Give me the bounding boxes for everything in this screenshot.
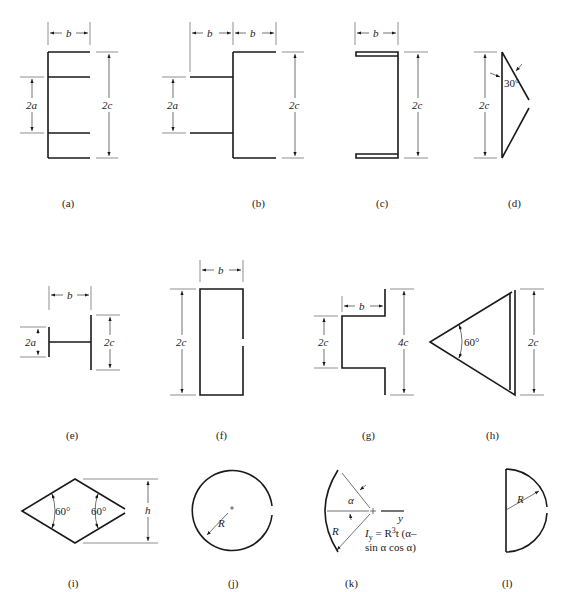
figure-g: b 2c 4c (g) <box>314 289 414 442</box>
caption-i: (i) <box>68 577 79 590</box>
cross-sections-diagram: b 2a 2c (a) b b 2a 2c (b) b 2c (c) <box>0 0 564 592</box>
dim-b: b <box>373 27 379 39</box>
caption-a: (a) <box>62 197 75 210</box>
axis-y: y <box>397 512 403 524</box>
dim-R: R <box>516 493 524 505</box>
svg-text:Iy = R3t (α–: Iy = R3t (α– <box>364 526 417 542</box>
figure-h: 60° 2c (h) <box>430 289 544 442</box>
caption-h: (h) <box>486 429 499 442</box>
caption-e: (e) <box>66 429 79 442</box>
dim-2a: 2a <box>26 99 38 111</box>
dim-b1: b <box>207 27 213 39</box>
figure-b: b b 2a 2c (b) <box>162 22 304 210</box>
angle-60-right: 60° <box>91 505 106 517</box>
dim-2c: 2c <box>176 336 187 348</box>
angle-60-left: 60° <box>55 505 70 517</box>
angle-30: 30° <box>504 77 519 89</box>
figure-k: y α R Iy = R3t (α– sin α cos α) (k) <box>325 470 417 590</box>
dim-2c: 2c <box>528 336 539 348</box>
dim-2c: 2c <box>289 99 300 111</box>
dim-2c: 2c <box>318 336 329 348</box>
dim-R: R <box>217 517 225 529</box>
figure-c: b 2c (c) <box>355 22 428 210</box>
figure-a: b 2a 2c (a) <box>20 22 118 210</box>
dim-b: b <box>359 300 365 312</box>
dim-b: b <box>67 289 73 301</box>
dim-b: b <box>218 264 224 276</box>
caption-g: (g) <box>362 429 375 442</box>
angle-alpha: α <box>348 494 354 506</box>
dim-2c: 2c <box>102 99 113 111</box>
caption-l: (l) <box>502 577 513 590</box>
figure-i: 60° 60° h (i) <box>22 479 158 590</box>
caption-f: (f) <box>216 429 227 442</box>
dim-2c: 2c <box>104 336 115 348</box>
caption-j: (j) <box>228 577 239 590</box>
caption-b: (b) <box>252 197 265 210</box>
figure-e: b 2a 2c (e) <box>20 286 120 442</box>
dim-b: b <box>66 27 72 39</box>
figure-f: b 2c (f) <box>170 260 243 442</box>
figure-d: 2c 30° (d) <box>474 52 529 210</box>
dim-b2: b <box>250 27 256 39</box>
dim-h: h <box>145 504 151 516</box>
caption-c: (c) <box>376 197 389 210</box>
dim-4c: 4c <box>398 336 409 348</box>
moment-of-inertia-formula: Iy = R3t (α– sin α cos α) <box>364 526 417 554</box>
formula-line2: sin α cos α) <box>365 541 416 554</box>
dim-2c: 2c <box>412 99 423 111</box>
dim-2a: 2a <box>167 99 179 111</box>
dim-2c: 2c <box>479 99 490 111</box>
angle-60: 60° <box>464 336 479 348</box>
figure-j: R (j) <box>192 471 272 590</box>
dim-2a: 2a <box>25 336 37 348</box>
caption-k: (k) <box>345 577 358 590</box>
dim-R: R <box>331 525 339 537</box>
caption-d: (d) <box>508 197 521 210</box>
figure-l: R (l) <box>502 469 547 590</box>
